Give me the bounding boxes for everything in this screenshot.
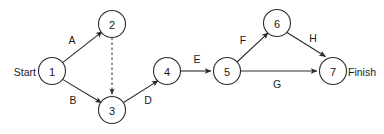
edge-label-b: B bbox=[69, 94, 76, 106]
edge-label-h: H bbox=[309, 32, 317, 44]
finish-label: Finish bbox=[348, 66, 376, 78]
edge-label-e: E bbox=[193, 53, 200, 65]
network-diagram: 1 2 3 4 5 6 7 A B D E F G H Start bbox=[0, 0, 384, 134]
node-5-label: 5 bbox=[224, 66, 230, 78]
edge-label-d: D bbox=[144, 94, 152, 106]
edge-1-to-3 bbox=[63, 79, 102, 102]
start-label: Start bbox=[14, 66, 36, 78]
edge-3-to-4 bbox=[123, 81, 158, 103]
node-1-label: 1 bbox=[49, 66, 55, 78]
diagram-canvas: 1 2 3 4 5 6 7 A B D E F G H Start bbox=[0, 0, 384, 134]
node-2-label: 2 bbox=[109, 19, 115, 31]
node-6-label: 6 bbox=[274, 18, 280, 30]
edge-labels-layer: A B D E F G H bbox=[68, 32, 316, 106]
edge-label-g: G bbox=[273, 78, 281, 90]
edge-label-a: A bbox=[68, 34, 75, 46]
node-7-label: 7 bbox=[330, 66, 336, 78]
edges-layer bbox=[63, 32, 326, 103]
node-4-label: 4 bbox=[164, 66, 170, 78]
edge-label-f: F bbox=[240, 34, 246, 46]
edge-6-to-7 bbox=[287, 33, 326, 57]
node-3-label: 3 bbox=[109, 105, 115, 117]
nodes-layer: 1 2 3 4 5 6 7 bbox=[39, 10, 347, 124]
